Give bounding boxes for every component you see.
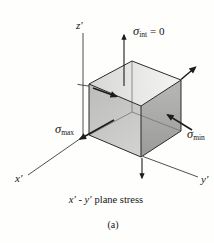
figure-plane-stress-element: z′ x′ y′ σint= 0 σmax σmin x′ - y′plane …	[0, 0, 214, 243]
sigma-min-subscript: min	[193, 133, 205, 142]
sigma-max-label: σmax	[55, 123, 74, 137]
y-axis-label: y′	[201, 173, 208, 185]
z-axis-label: z′	[76, 19, 83, 31]
y-axis-line	[143, 157, 198, 178]
caption-text-part: plane stress	[94, 194, 143, 205]
sigma-max-subscript: max	[61, 128, 74, 137]
caption-axes-part: x′ - y′	[69, 194, 92, 205]
figure-sublabel: (a)	[107, 219, 118, 230]
caption: x′ - y′plane stress	[69, 194, 143, 206]
sigma-max-rear-arrow	[181, 67, 196, 79]
sigma-int-value: = 0	[150, 25, 164, 37]
sigma-min-label: σmin	[187, 128, 205, 142]
cube-faces	[89, 61, 181, 157]
stress-cube-diagram	[0, 0, 214, 243]
sigma-int-label: σint= 0	[133, 25, 165, 39]
sigma-int-subscript: int	[139, 30, 147, 39]
x-axis-label: x′	[15, 172, 22, 184]
x-axis-line	[28, 136, 84, 175]
